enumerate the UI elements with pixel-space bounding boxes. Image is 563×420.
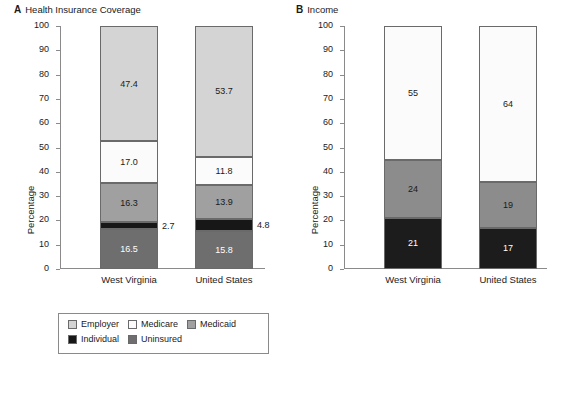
bar-segment-value: 24: [408, 184, 418, 194]
panel-b-y-tick-label: 80: [323, 69, 333, 80]
legend-label: Individual: [81, 334, 119, 345]
panel-a-y-tick: 10: [56, 245, 60, 246]
legend-item-medicare[interactable]: Medicare: [128, 319, 178, 330]
panel-a-legend-row: IndividualUninsured: [68, 334, 268, 345]
bar-segment-near-poor[interactable]: 19: [479, 182, 537, 228]
panel-b-heading: BIncome: [296, 4, 338, 15]
panel-a-y-tick-label: 0: [44, 263, 49, 274]
legend-swatch-icon: [187, 320, 196, 329]
panel-a-heading: AHealth Insurance Coverage: [14, 4, 141, 15]
bar-segment-value: 15.8: [215, 245, 233, 255]
panel-a-y-tick: 90: [56, 50, 60, 51]
panel-a-y-tick-label: 80: [39, 69, 49, 80]
legend-swatch-icon: [68, 335, 77, 344]
panel-a-y-tick: 100: [56, 26, 60, 27]
bar-segment-individual[interactable]: 4.8: [195, 219, 253, 231]
legend-item-employer[interactable]: Employer: [68, 319, 119, 330]
panel-a-y-tick: 80: [56, 75, 60, 76]
panel-b-y-tick: 50: [340, 148, 344, 149]
panel-b-y-tick-label: 70: [323, 93, 333, 104]
panel-a-letter: A: [14, 4, 21, 15]
panel-a-title: Health Insurance Coverage: [25, 4, 141, 15]
bar-segment-medicaid[interactable]: 16.3: [100, 183, 158, 223]
panel-b-y-axis-title: Percentage: [309, 186, 320, 235]
panel-b-y-tick: 20: [340, 220, 344, 221]
legend-swatch-icon: [128, 320, 137, 329]
panel-b-y-tick: 10: [340, 245, 344, 246]
panel-a-legend: EmployerMedicareMedicaidIndividualUninsu…: [58, 313, 269, 354]
bar-segment-value: 53.7: [215, 86, 233, 96]
x-axis-label-west-virginia: West Virginia: [385, 274, 441, 285]
panel-a-y-tick: 0: [56, 269, 60, 270]
panel-b-y-tick-label: 50: [323, 142, 333, 153]
panel-a-y-tick-label: 10: [39, 239, 49, 250]
bar-segment-medicare[interactable]: 17.0: [100, 141, 158, 182]
legend-swatch-icon: [68, 320, 77, 329]
panel-b-y-tick-label: 90: [323, 44, 333, 55]
panel-a-y-tick-label: 60: [39, 117, 49, 128]
bar-segment-value: 16.3: [120, 198, 138, 208]
bar-segment-non-poor[interactable]: 55: [384, 26, 442, 160]
bar-segment-value: 2.7: [162, 221, 175, 231]
bar-segment-value: 11.8: [216, 166, 233, 176]
panel-a-y-tick: 20: [56, 220, 60, 221]
panel-b-y-tick-label: 20: [323, 214, 333, 225]
panel-b-y-tick-label: 0: [328, 263, 333, 274]
panel-b-y-tick: 0: [340, 269, 344, 270]
bar-segment-medicaid[interactable]: 13.9: [195, 185, 253, 219]
bar-segment-poor[interactable]: 17: [479, 228, 537, 269]
bar-segment-uninsured[interactable]: 16.5: [100, 229, 158, 269]
panel-b-plot-area: 1009080706050403020100 212455West Virgin…: [344, 26, 547, 269]
bar-segment-value: 47.4: [120, 79, 138, 89]
x-axis-label-west-virginia: West Virginia: [101, 274, 157, 285]
panel-b-y-tick-label: 40: [323, 166, 333, 177]
bar-segment-value: 4.8: [257, 220, 270, 230]
bar-segment-value: 17.0: [120, 157, 138, 167]
panel-b-title: Income: [307, 4, 338, 15]
panel-income: BIncome Percentage 100908070605040302010…: [282, 0, 563, 420]
panel-a-y-tick: 50: [56, 148, 60, 149]
legend-label: Employer: [81, 319, 119, 330]
panel-b-y-tick: 80: [340, 75, 344, 76]
legend-label: Medicare: [141, 319, 178, 330]
panel-a-legend-row: EmployerMedicareMedicaid: [68, 319, 268, 330]
legend-swatch-icon: [128, 335, 137, 344]
legend-item-uninsured[interactable]: Uninsured: [128, 334, 182, 345]
bar-segment-value: 13.9: [215, 197, 233, 207]
bar-segment-value: 17: [503, 243, 513, 253]
panel-b-y-tick: 30: [340, 196, 344, 197]
bar-segment-individual[interactable]: 2.7: [100, 222, 158, 229]
legend-item-medicaid[interactable]: Medicaid: [187, 319, 236, 330]
bar-segment-employer[interactable]: 53.7: [195, 26, 253, 156]
panel-a-plot-area: 1009080706050403020100 16.52.716.317.047…: [60, 26, 265, 269]
panel-b-y-tick-label: 10: [323, 239, 333, 250]
bar-segment-medicare[interactable]: 11.8: [195, 157, 253, 186]
bar-segment-poor[interactable]: 21: [384, 218, 442, 269]
panel-a-y-tick: 40: [56, 172, 60, 173]
panel-b-y-tick: 60: [340, 123, 344, 124]
panel-b-y-tick-label: 30: [323, 190, 333, 201]
legend-item-individual[interactable]: Individual: [68, 334, 119, 345]
x-axis-label-united-states: United States: [479, 274, 536, 285]
bar-segment-near-poor[interactable]: 24: [384, 160, 442, 218]
panel-a-y-tick-label: 40: [39, 166, 49, 177]
panel-a-y-tick-label: 30: [39, 190, 49, 201]
bar-segment-employer[interactable]: 47.4: [100, 26, 158, 141]
panel-health-insurance-coverage: AHealth Insurance Coverage Percentage 10…: [0, 0, 281, 420]
panel-b-y-axis-line: [344, 26, 345, 269]
panel-a-y-tick-label: 70: [39, 93, 49, 104]
bar-segment-uninsured[interactable]: 15.8: [195, 231, 253, 269]
panel-a-y-axis-line: [60, 26, 61, 269]
bar-segment-value: 64: [503, 99, 513, 109]
bar-segment-non-poor[interactable]: 64: [479, 26, 537, 182]
panel-b-y-tick: 100: [340, 26, 344, 27]
panel-a-y-tick-label: 100: [34, 20, 49, 31]
bar-segment-value: 21: [408, 238, 418, 248]
panel-a-y-tick: 30: [56, 196, 60, 197]
panel-a-y-tick: 60: [56, 123, 60, 124]
panel-a-y-tick-label: 90: [39, 44, 49, 55]
legend-label: Medicaid: [200, 319, 236, 330]
x-axis-label-united-states: United States: [195, 274, 252, 285]
bar-segment-value: 55: [408, 88, 418, 98]
panel-a-y-axis-title: Percentage: [25, 186, 36, 235]
